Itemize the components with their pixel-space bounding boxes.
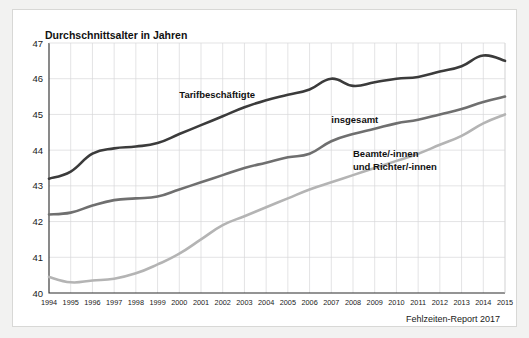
x-axis-tick-labels: 1994199519961997199819992000200120022003… [41,298,513,307]
chart-svg: 4041424344454647 19941995199619971998199… [13,10,518,328]
x-tick-label: 2008 [345,298,361,307]
y-tick-label: 42 [32,216,43,227]
y-tick-label: 40 [32,288,43,299]
series-annotation-3: und Richter/-innen [353,161,437,172]
y-tick-label: 43 [32,180,43,191]
x-tick-label: 2015 [497,298,513,307]
figure-card: 4041424344454647 19941995199619971998199… [12,9,517,327]
source-label: Fehlzeiten-Report 2017 [406,314,500,324]
x-tick-label: 2001 [193,298,209,307]
x-tick-label: 1994 [41,298,57,307]
x-tick-label: 2007 [323,298,339,307]
y-tick-label: 44 [32,145,43,156]
x-tick-label: 1999 [149,298,165,307]
x-tick-label: 2010 [388,298,404,307]
x-tick-label: 2006 [301,298,317,307]
x-tick-label: 2012 [432,298,448,307]
x-tick-label: 2004 [258,298,274,307]
x-tick-label: 2003 [236,298,252,307]
x-tick-label: 1997 [106,298,122,307]
series-annotation-1: insgesamt [331,114,379,125]
x-tick-label: 1998 [128,298,144,307]
y-tick-label: 45 [32,109,43,120]
y-tick-label: 46 [32,73,43,84]
y-tick-label: 41 [32,252,43,263]
x-tick-label: 2009 [367,298,383,307]
x-tick-label: 2005 [280,298,296,307]
line-chart: 4041424344454647 19941995199619971998199… [13,10,518,328]
y-axis-tick-labels: 4041424344454647 [32,38,43,299]
chart-title: Durchschnittsalter in Jahren [45,29,187,41]
x-tick-label: 2000 [171,298,187,307]
x-tick-label: 2002 [215,298,231,307]
x-tick-label: 1996 [84,298,100,307]
y-tick-label: 47 [32,38,43,49]
screenshot-root: 4041424344454647 19941995199619971998199… [0,0,529,338]
series-annotation-2: Beamte/-innen [353,148,419,159]
x-tick-label: 1995 [63,298,79,307]
x-tick-label: 2011 [410,298,426,307]
x-tick-label: 2014 [475,298,491,307]
series-annotation-0: Tarifbeschäftigte [179,89,255,100]
x-tick-label: 2013 [453,298,469,307]
